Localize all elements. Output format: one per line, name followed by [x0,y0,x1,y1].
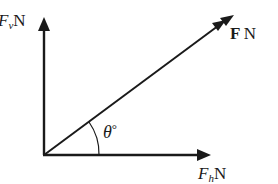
angle-arc [89,122,99,155]
angle-label: θ° [103,122,117,141]
vertical-arrowhead-icon [38,17,50,31]
vertical-force-label: FvN [0,12,26,31]
horizontal-force-label: FhN [198,165,226,184]
resultant-force-line [44,20,226,155]
horizontal-arrowhead-icon [197,149,211,161]
resultant-force-label: F N [230,25,256,42]
